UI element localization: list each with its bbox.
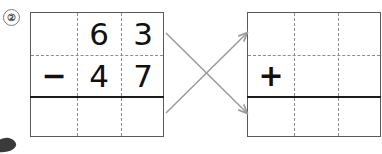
problem-number-badge: ② (3, 9, 20, 26)
cell-difference-ones[interactable] (121, 97, 165, 139)
cell-minuend-tens[interactable]: 6 (77, 13, 121, 55)
cell-sum-sign[interactable] (249, 97, 293, 139)
cell-subtrahend-ones[interactable]: 7 (121, 55, 165, 97)
plus-sign-icon: + (249, 55, 293, 97)
arrow-difference-to-top (166, 33, 247, 113)
cell-addend2-tens[interactable] (294, 55, 338, 97)
cell-subtrahend-tens[interactable]: 4 (77, 55, 121, 97)
subtraction-grid: 6 3 − 4 7 (30, 12, 164, 137)
cell-sum-tens[interactable] (294, 97, 338, 139)
cell-addend2-ones[interactable] (338, 55, 382, 97)
cell-minuend-ones[interactable]: 3 (121, 13, 165, 55)
scan-artifact (0, 136, 17, 154)
cell-difference-tens[interactable] (77, 97, 121, 139)
minus-sign-icon: − (32, 55, 76, 97)
cell-addend1-ones[interactable] (338, 13, 382, 55)
cell-minuend-sign[interactable] (32, 13, 76, 55)
cell-addend1-tens[interactable] (294, 13, 338, 55)
cell-addend1-sign[interactable] (249, 13, 293, 55)
addition-grid: + (247, 12, 381, 137)
arrow-answer-to-addend (166, 33, 247, 113)
cell-difference-sign[interactable] (32, 97, 76, 139)
cell-sum-ones[interactable] (338, 97, 382, 139)
